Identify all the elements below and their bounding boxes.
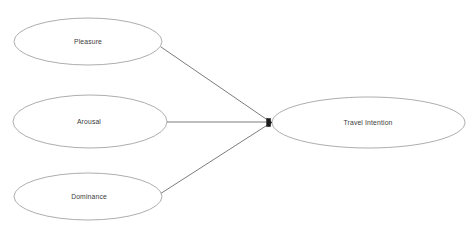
node-travel-intention-label: Travel Intention xyxy=(344,119,393,126)
diagram-canvas: Pleasure Arousal Dominance Travel Intent… xyxy=(0,0,475,233)
node-travel-intention[interactable]: Travel Intention xyxy=(272,97,465,148)
node-arousal-label: Arousal xyxy=(77,118,101,125)
edge-pleasure-to-travel-intention xyxy=(161,47,269,121)
path-diagram: Pleasure Arousal Dominance Travel Intent… xyxy=(0,0,475,233)
node-dominance-label: Dominance xyxy=(71,193,107,200)
arrowhead-stem xyxy=(267,118,270,126)
node-pleasure-label: Pleasure xyxy=(74,38,102,45)
node-arousal[interactable]: Arousal xyxy=(13,95,167,148)
node-dominance[interactable]: Dominance xyxy=(14,173,162,220)
convergence-arrowhead-icon xyxy=(267,118,273,127)
edge-dominance-to-travel-intention xyxy=(160,124,269,194)
edge-group xyxy=(160,47,269,194)
node-pleasure[interactable]: Pleasure xyxy=(14,18,162,65)
